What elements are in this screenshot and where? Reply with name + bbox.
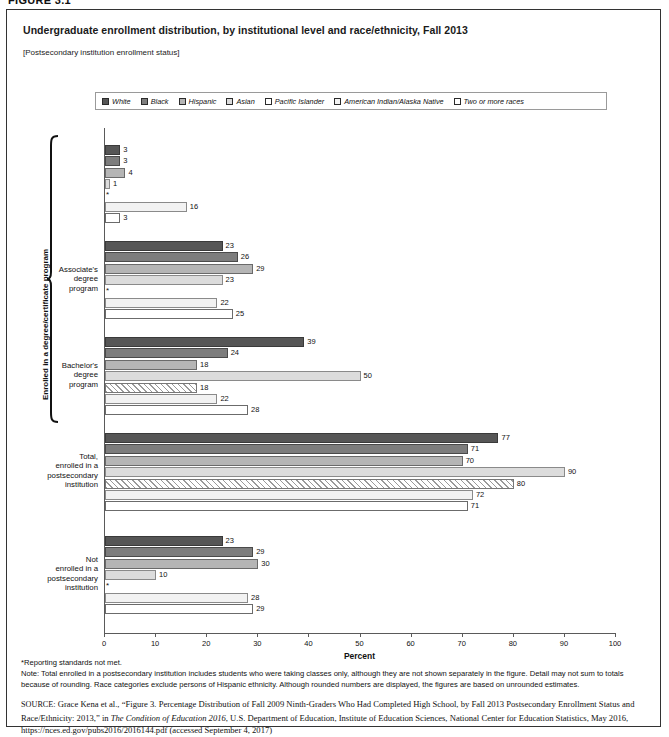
group-label: Total, enrolled in a postsecondary insti…	[10, 452, 98, 490]
bar[interactable]	[105, 213, 120, 223]
bar[interactable]	[105, 547, 253, 557]
bar[interactable]	[105, 433, 498, 443]
bar[interactable]	[105, 570, 156, 580]
bar-value-label: 23	[226, 536, 234, 546]
bar-value-label: 3	[123, 145, 127, 155]
legend-swatch-icon	[226, 98, 233, 105]
legend-item-black[interactable]: Black	[141, 97, 169, 106]
bar-value-label: 29	[256, 604, 264, 614]
x-axis-tick	[104, 633, 105, 637]
bar[interactable]	[105, 536, 223, 546]
source-publication: The Condition of Education 2016	[111, 713, 226, 723]
bar[interactable]	[105, 202, 187, 212]
group-label: Associate's degree program	[10, 265, 98, 294]
bar[interactable]	[105, 252, 238, 262]
bar-value-label: 24	[231, 348, 239, 358]
legend-swatch-icon	[454, 98, 461, 105]
x-axis-tick-label: 30	[253, 639, 261, 648]
x-axis-tick	[564, 633, 565, 637]
figure-page: FIGURE 3.1 Undergraduate enrollment dist…	[0, 0, 669, 737]
note-body: Note: Total enrolled in a postsecondary …	[21, 669, 651, 690]
bar-value-label: 72	[476, 490, 484, 500]
bar-value-label: 16	[190, 202, 198, 212]
bar[interactable]	[105, 444, 468, 454]
legend-item-label: Two or more races	[464, 97, 524, 106]
figure-subtitle: [Postsecondary institution enrollment st…	[23, 47, 623, 58]
x-axis-tick	[308, 633, 309, 637]
bar-value-label: 28	[251, 405, 259, 415]
x-axis-tick-label: 60	[406, 639, 414, 648]
bar-value-label: 30	[261, 559, 269, 569]
x-axis-tick-label: 100	[609, 639, 622, 648]
x-axis-tick	[206, 633, 207, 637]
bar[interactable]	[105, 179, 110, 189]
bar[interactable]	[105, 145, 120, 155]
bar[interactable]	[105, 168, 125, 178]
bar[interactable]	[105, 275, 223, 285]
x-axis-tick	[615, 633, 616, 637]
bar-value-label: 77	[501, 433, 509, 443]
bar[interactable]	[105, 309, 233, 319]
bar[interactable]	[105, 360, 197, 370]
bar[interactable]	[105, 467, 565, 477]
legend-item-hispanic[interactable]: Hispanic	[179, 97, 217, 106]
legend-item-two-or-more-races[interactable]: Two or more races	[454, 97, 524, 106]
bar-suppressed-marker: *	[106, 286, 109, 296]
bar-value-label: 1	[113, 179, 117, 189]
legend-swatch-icon	[102, 98, 109, 105]
figure-source: SOURCE: Grace Kena et al., “Figure 3. Pe…	[21, 698, 655, 737]
bar[interactable]	[105, 298, 217, 308]
bar[interactable]	[105, 348, 228, 358]
figure-frame: Undergraduate enrollment distribution, b…	[6, 9, 661, 727]
bar-value-label: 39	[307, 337, 315, 347]
bar[interactable]	[105, 337, 304, 347]
bar[interactable]	[105, 479, 514, 489]
legend-item-label: Asian	[236, 97, 254, 106]
legend-item-white[interactable]: White	[102, 97, 131, 106]
legend-swatch-icon	[334, 98, 341, 105]
bar[interactable]	[105, 559, 258, 569]
bar[interactable]	[105, 371, 361, 381]
x-axis-tick	[257, 633, 258, 637]
group-label: Not enrolled in a postsecondary institut…	[10, 555, 98, 593]
x-axis-tick	[360, 633, 361, 637]
bar-value-label: 18	[200, 383, 208, 393]
bar[interactable]	[105, 501, 468, 511]
bar-suppressed-marker: *	[106, 581, 109, 591]
legend-item-label: Pacific Islander	[275, 97, 324, 106]
legend-swatch-icon	[141, 98, 148, 105]
legend-swatch-icon	[179, 98, 186, 105]
x-axis-tick-label: 90	[560, 639, 568, 648]
bar[interactable]	[105, 405, 248, 415]
legend-item-label: Hispanic	[189, 97, 217, 106]
legend-item-american-indian-alaska-native[interactable]: American Indian/Alaska Native	[334, 97, 443, 106]
bar[interactable]	[105, 383, 197, 393]
legend-item-pacific-islander[interactable]: Pacific Islander	[265, 97, 324, 106]
bar[interactable]	[105, 264, 253, 274]
x-axis-tick	[411, 633, 412, 637]
bar[interactable]	[105, 241, 223, 251]
legend-swatch-icon	[265, 98, 272, 105]
chart-legend: WhiteBlackHispanicAsianPacific IslanderA…	[95, 92, 607, 110]
bar-value-label: 22	[220, 394, 228, 404]
bar[interactable]	[105, 394, 217, 404]
bar[interactable]	[105, 456, 463, 466]
x-axis-tick-label: 50	[355, 639, 363, 648]
x-axis-tick-label: 70	[458, 639, 466, 648]
legend-item-label: American Indian/Alaska Native	[344, 97, 443, 106]
x-axis-tick-label: 20	[202, 639, 210, 648]
bar[interactable]	[105, 604, 253, 614]
legend-item-label: White	[112, 97, 131, 106]
legend-item-asian[interactable]: Asian	[226, 97, 254, 106]
x-axis-tick	[462, 633, 463, 637]
bar-value-label: 80	[517, 479, 525, 489]
bar-value-label: 10	[159, 570, 167, 580]
source-prefix: SOURCE:	[21, 700, 56, 709]
bar-value-label: 71	[471, 444, 479, 454]
bar[interactable]	[105, 593, 248, 603]
x-axis-tick	[155, 633, 156, 637]
bar-value-label: 71	[471, 501, 479, 511]
bar[interactable]	[105, 156, 120, 166]
bar[interactable]	[105, 490, 473, 500]
x-axis-tick-label: 0	[102, 639, 106, 648]
